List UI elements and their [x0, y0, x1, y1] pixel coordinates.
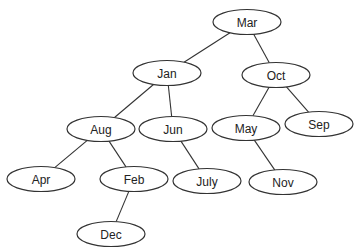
edge-may-nov [254, 140, 274, 170]
node-label: Apr [32, 173, 51, 187]
node-label: Jan [157, 67, 176, 81]
node-feb: Feb [100, 167, 168, 192]
node-dec: Dec [77, 222, 145, 247]
edge-oct-sep [286, 87, 308, 112]
node-label: July [196, 175, 217, 189]
edge-jun-july [181, 141, 199, 169]
node-aug: Aug [67, 117, 135, 142]
edge-jan-aug [115, 84, 154, 117]
node-label: Mar [237, 16, 258, 30]
tree-diagram: MarJanOctAugJunMaySepAprFebJulyNovDec [0, 0, 359, 250]
node-may: May [212, 116, 280, 141]
tree-svg: MarJanOctAugJunMaySepAprFebJulyNovDec [0, 0, 359, 250]
edge-mar-oct [254, 34, 270, 62]
node-label: Aug [90, 123, 111, 137]
edge-aug-apr [55, 140, 88, 167]
nodes-group: MarJanOctAugJunMaySepAprFebJulyNovDec [7, 10, 353, 247]
edge-feb-dec [116, 191, 129, 221]
node-mar: Mar [213, 10, 281, 35]
edge-mar-jan [184, 33, 230, 62]
edge-aug-feb [109, 141, 126, 167]
node-nov: Nov [249, 170, 317, 195]
node-label: Sep [308, 118, 330, 132]
edge-oct-may [253, 87, 269, 116]
node-label: Feb [124, 173, 145, 187]
node-label: Dec [100, 228, 121, 242]
node-label: Jun [163, 123, 182, 137]
node-label: May [235, 122, 258, 136]
node-jan: Jan [133, 61, 201, 86]
node-label: Nov [272, 176, 293, 190]
node-jun: Jun [139, 117, 207, 142]
node-apr: Apr [7, 167, 75, 192]
node-sep: Sep [285, 112, 353, 137]
node-oct: Oct [242, 63, 310, 88]
node-july: July [173, 169, 241, 194]
node-label: Oct [267, 69, 286, 83]
edge-jan-jun [168, 85, 171, 116]
